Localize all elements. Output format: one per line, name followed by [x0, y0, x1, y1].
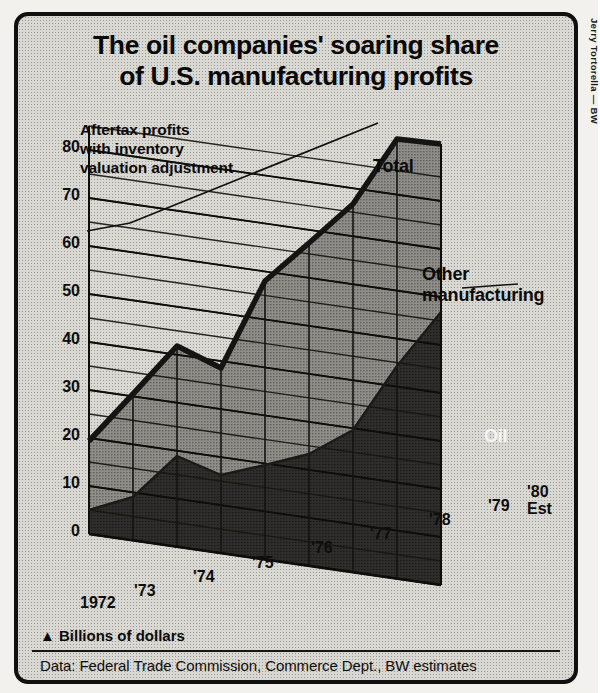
annotation-line-1: Aftertax profits: [80, 121, 233, 140]
series-label-other-line-2: manufacturing: [422, 285, 544, 306]
series-label-oil: Oil: [484, 426, 507, 447]
photographer-credit: Jerry Tortorella — BW: [589, 18, 600, 124]
annotation-aftertax-profits: Aftertax profits with inventory valuatio…: [80, 121, 233, 178]
annotation-line-2: with inventory: [80, 140, 233, 159]
y-tick-40: 40: [40, 330, 80, 348]
x-tick-80: '80 Est: [527, 483, 552, 517]
y-tick-30: 30: [40, 378, 80, 396]
y-tick-0: 0: [40, 522, 80, 540]
y-tick-50: 50: [40, 282, 80, 300]
y-tick-20: 20: [40, 426, 80, 444]
x-tick-78: '78: [429, 511, 451, 529]
x-tick-1972: 1972: [80, 594, 116, 612]
x-tick-75: '75: [252, 554, 274, 572]
x-tick-76: '76: [311, 539, 333, 557]
y-tick-70: 70: [40, 186, 80, 204]
y-tick-80: 80: [40, 138, 80, 156]
x-tick-73: '73: [134, 582, 156, 600]
x-tick-74: '74: [193, 568, 215, 586]
chart-card: The oil companies' soaring share of U.S.…: [14, 12, 578, 684]
series-label-total: Total: [373, 156, 414, 177]
series-label-other-manufacturing: Other manufacturing: [422, 264, 544, 305]
y-tick-10: 10: [40, 474, 80, 492]
annotation-line-3: valuation adjustment: [80, 159, 233, 178]
x-tick-80-est: Est: [527, 501, 552, 517]
chart-plot-area: [18, 16, 574, 680]
series-label-other-line-1: Other: [422, 264, 544, 285]
x-tick-77: '77: [370, 525, 392, 543]
x-tick-80-year: '80: [527, 483, 549, 500]
x-tick-79: '79: [488, 497, 510, 515]
area-chart-svg: [18, 16, 574, 680]
source-credit: Data: Federal Trade Commission, Commerce…: [40, 657, 477, 674]
divider: [32, 650, 560, 652]
y-tick-60: 60: [40, 234, 80, 252]
axis-caption: ▲ Billions of dollars: [40, 627, 185, 644]
